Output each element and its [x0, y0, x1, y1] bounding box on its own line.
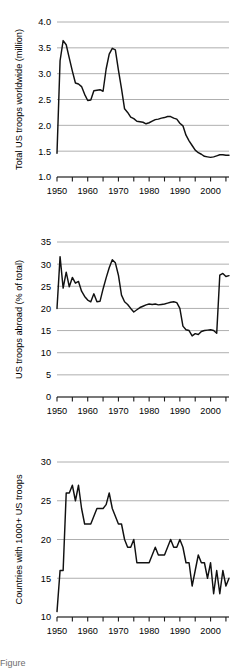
x-tick-label: 1990: [170, 406, 190, 416]
y-tick-label: 4.0: [38, 17, 51, 27]
y-tick-label: 15: [41, 574, 51, 584]
y-tick-label: 10: [41, 348, 51, 358]
y-tick-label: 0: [46, 392, 51, 402]
x-tick-label: 1980: [139, 406, 159, 416]
figure-caption-text: Figure: [0, 658, 26, 668]
x-axis: 195019601970198019902000: [47, 617, 229, 636]
y-tick-label: 30: [41, 260, 51, 270]
y-tick-label: 2.0: [38, 121, 51, 131]
y-axis-tick-labels: 05101520253035: [41, 237, 51, 402]
y-tick-label: 20: [41, 304, 51, 314]
data-series-line: [57, 257, 229, 336]
y-axis-tick-labels: 1015202530: [41, 457, 51, 622]
data-series-line: [57, 485, 229, 611]
gridlines: [57, 22, 229, 177]
y-axis-tick-labels: 1.01.52.02.53.03.54.0: [38, 17, 51, 182]
y-tick-label: 20: [41, 535, 51, 545]
y-axis-title: US troops abroad (% of total): [14, 260, 24, 379]
y-tick-label: 3.0: [38, 69, 51, 79]
chart-panel-us-troops-abroad-pct: 05101520253035195019601970198019902000US…: [0, 220, 241, 440]
line-chart-total-us-troops-worldwide: 1.01.52.02.53.03.54.01950196019701980199…: [0, 0, 241, 220]
y-tick-label: 2.5: [38, 95, 51, 105]
x-tick-label: 1990: [170, 626, 190, 636]
x-tick-label: 1950: [47, 626, 67, 636]
x-axis: 195019601970198019902000: [47, 177, 229, 196]
y-tick-label: 10: [41, 612, 51, 622]
x-tick-label: 2000: [200, 406, 220, 416]
data-series-line: [57, 41, 229, 158]
x-tick-label: 1960: [77, 186, 97, 196]
y-tick-label: 25: [41, 282, 51, 292]
x-tick-label: 1970: [108, 406, 128, 416]
x-tick-label: 1960: [77, 406, 97, 416]
y-tick-label: 3.5: [38, 43, 51, 53]
x-tick-label: 1950: [47, 406, 67, 416]
y-tick-label: 5: [46, 370, 51, 380]
y-tick-label: 30: [41, 457, 51, 467]
y-tick-label: 35: [41, 237, 51, 247]
y-axis-title: Countries with 1000+ US troops: [14, 474, 24, 604]
line-chart-countries-with-1000-plus-us-troops: 1015202530195019601970198019902000Countr…: [0, 440, 241, 660]
chart-panel-total-us-troops-worldwide: 1.01.52.02.53.03.54.01950196019701980199…: [0, 0, 241, 220]
x-tick-label: 1970: [108, 626, 128, 636]
y-tick-label: 15: [41, 326, 51, 336]
y-tick-label: 25: [41, 496, 51, 506]
gridlines: [57, 462, 229, 617]
x-axis: 195019601970198019902000: [47, 397, 229, 416]
figure-us-troops-panels: 1.01.52.02.53.03.54.01950196019701980199…: [0, 0, 241, 670]
y-tick-label: 1.0: [38, 172, 51, 182]
figure-caption: Figure: [0, 658, 241, 670]
gridlines: [57, 242, 229, 397]
x-tick-label: 1950: [47, 186, 67, 196]
x-tick-label: 2000: [200, 626, 220, 636]
line-chart-us-troops-abroad-pct: 05101520253035195019601970198019902000US…: [0, 220, 241, 440]
chart-panel-countries-with-1000-plus-us-troops: 1015202530195019601970198019902000Countr…: [0, 440, 241, 660]
y-axis-title: Total US troops worldwide (million): [14, 29, 24, 170]
x-tick-label: 1970: [108, 186, 128, 196]
x-tick-label: 1980: [139, 626, 159, 636]
x-tick-label: 2000: [200, 186, 220, 196]
y-tick-label: 1.5: [38, 147, 51, 157]
x-tick-label: 1990: [170, 186, 190, 196]
x-tick-label: 1960: [77, 626, 97, 636]
x-tick-label: 1980: [139, 186, 159, 196]
